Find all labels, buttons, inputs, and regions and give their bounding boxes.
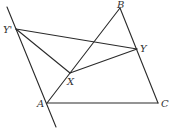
label-a: A xyxy=(36,98,44,109)
geometry-diagram: B Y' Y X A C xyxy=(0,0,173,139)
label-c: C xyxy=(161,98,169,109)
label-x: X xyxy=(66,76,75,87)
label-b: B xyxy=(116,0,124,10)
line-yprime-a xyxy=(7,7,56,127)
segment-bc xyxy=(120,8,158,103)
segment-yprime-x xyxy=(16,29,70,73)
segment-yprime-y xyxy=(16,29,137,49)
label-y: Y xyxy=(140,43,148,54)
label-yprime: Y' xyxy=(3,24,12,35)
segment-xy xyxy=(70,49,137,73)
segment-ab xyxy=(47,8,120,103)
